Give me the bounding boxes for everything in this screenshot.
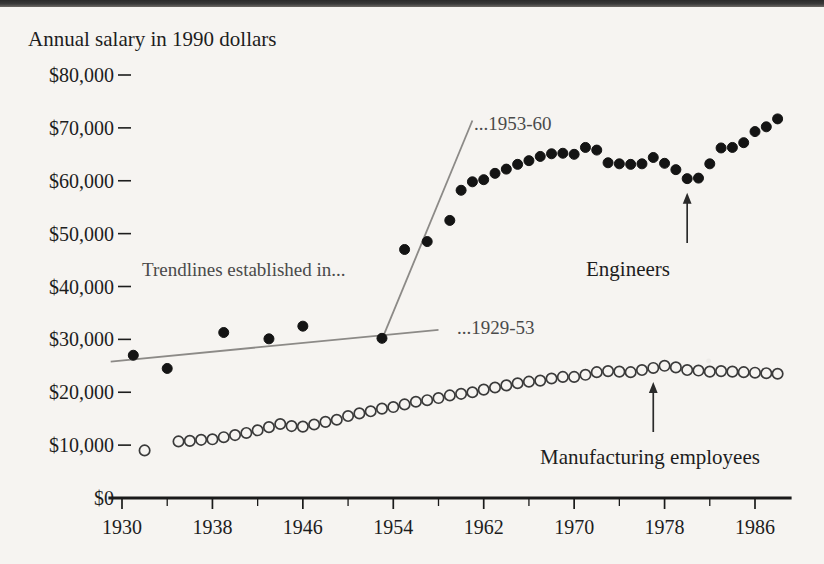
data-point-manufacturing <box>286 421 296 431</box>
x-tick-label: 1962 <box>464 516 504 538</box>
data-point-engineers <box>501 164 511 174</box>
data-point-manufacturing <box>625 367 635 377</box>
data-point-manufacturing <box>546 373 556 383</box>
trendline <box>111 330 439 362</box>
x-tick-label: 1938 <box>192 516 232 538</box>
data-point-engineers <box>400 244 410 254</box>
data-point-engineers <box>456 185 466 195</box>
data-point-manufacturing <box>535 375 545 385</box>
data-point-manufacturing <box>230 430 240 440</box>
y-tick-label: $70,000 <box>49 117 114 139</box>
data-point-manufacturing <box>433 393 443 403</box>
data-point-manufacturing <box>592 367 602 377</box>
data-point-manufacturing <box>365 406 375 416</box>
y-tick-label: $60,000 <box>49 170 114 192</box>
data-point-engineers <box>626 159 636 169</box>
manufacturing-arrow-head <box>649 382 658 393</box>
data-point-manufacturing <box>219 432 229 442</box>
data-point-engineers <box>682 174 692 184</box>
data-point-manufacturing <box>603 366 613 376</box>
data-point-engineers <box>716 143 726 153</box>
data-point-manufacturing <box>422 395 432 405</box>
data-point-manufacturing <box>772 369 782 379</box>
data-point-manufacturing <box>727 366 737 376</box>
data-point-manufacturing <box>275 419 285 429</box>
series-manufacturing-employees <box>139 361 782 456</box>
y-tick-label: $20,000 <box>49 381 114 403</box>
y-tick-label: $40,000 <box>49 276 114 298</box>
data-point-manufacturing <box>207 434 217 444</box>
data-point-manufacturing <box>614 366 624 376</box>
data-point-engineers <box>750 127 760 137</box>
data-point-manufacturing <box>512 378 522 388</box>
trend-early-label: ...1929-53 <box>457 317 535 338</box>
y-tick-label: $10,000 <box>49 434 114 456</box>
data-point-engineers <box>547 149 557 159</box>
engineers-label: Engineers <box>586 257 670 281</box>
data-point-engineers <box>580 142 590 152</box>
data-point-engineers <box>660 158 670 168</box>
data-point-engineers <box>128 350 138 360</box>
data-point-engineers <box>558 148 568 158</box>
data-point-engineers <box>298 321 308 331</box>
data-point-manufacturing <box>705 366 715 376</box>
data-point-manufacturing <box>569 372 579 382</box>
x-tick-label: 1930 <box>102 516 142 538</box>
data-point-manufacturing <box>309 419 319 429</box>
x-tick-label: 1954 <box>373 516 413 538</box>
data-point-manufacturing <box>399 399 409 409</box>
axis-title: Annual salary in 1990 dollars <box>28 27 276 51</box>
data-point-manufacturing <box>252 425 262 435</box>
data-point-manufacturing <box>264 422 274 432</box>
data-point-manufacturing <box>648 363 658 373</box>
data-point-engineers <box>648 152 658 162</box>
data-point-manufacturing <box>456 389 466 399</box>
data-point-engineers <box>467 177 477 187</box>
data-point-engineers <box>162 363 172 373</box>
data-point-engineers <box>592 145 602 155</box>
data-point-engineers <box>264 334 274 344</box>
data-point-engineers <box>377 333 387 343</box>
data-point-manufacturing <box>354 408 364 418</box>
data-point-manufacturing <box>490 382 500 392</box>
data-point-manufacturing <box>377 403 387 413</box>
trendline <box>382 120 472 339</box>
x-tick-label: 1946 <box>283 516 323 538</box>
data-point-manufacturing <box>241 428 251 438</box>
data-point-engineers <box>603 158 613 168</box>
data-point-engineers <box>490 168 500 178</box>
data-point-engineers <box>705 159 715 169</box>
data-point-manufacturing <box>738 367 748 377</box>
trend-late-label: ...1953-60 <box>474 113 552 134</box>
data-point-engineers <box>637 159 647 169</box>
data-point-manufacturing <box>558 372 568 382</box>
data-point-manufacturing <box>332 415 342 425</box>
chart-svg: Annual salary in 1990 dollars$0$10,000$2… <box>0 0 824 564</box>
data-point-engineers <box>773 114 783 124</box>
data-point-engineers <box>445 215 455 225</box>
data-point-engineers <box>219 328 229 338</box>
data-point-manufacturing <box>196 435 206 445</box>
data-point-manufacturing <box>580 370 590 380</box>
data-point-engineers <box>524 156 534 166</box>
data-point-engineers <box>535 151 545 161</box>
data-point-manufacturing <box>173 436 183 446</box>
data-point-engineers <box>513 159 523 169</box>
data-point-manufacturing <box>298 421 308 431</box>
y-tick-label: $80,000 <box>49 64 114 86</box>
y-tick-label: $50,000 <box>49 223 114 245</box>
data-point-engineers <box>479 175 489 185</box>
data-point-manufacturing <box>501 380 511 390</box>
data-point-manufacturing <box>524 376 534 386</box>
x-tick-label: 1986 <box>735 516 775 538</box>
engineers-arrow-head <box>683 193 692 204</box>
figure-canvas: Annual salary in 1990 dollars$0$10,000$2… <box>0 0 824 564</box>
trendlines-note: Trendlines established in... <box>142 259 346 280</box>
data-point-manufacturing <box>637 365 647 375</box>
manufacturing-label: Manufacturing employees <box>540 445 760 469</box>
series-engineers <box>128 114 782 374</box>
data-point-manufacturing <box>320 417 330 427</box>
data-point-engineers <box>569 149 579 159</box>
data-point-manufacturing <box>479 384 489 394</box>
data-point-engineers <box>671 165 681 175</box>
